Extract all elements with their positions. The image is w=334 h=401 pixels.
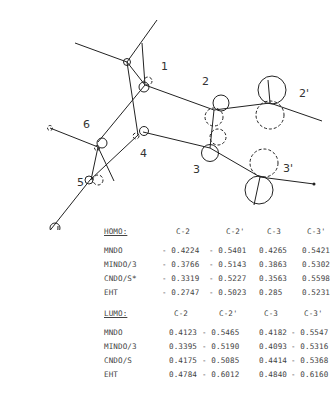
- column-header: C-3: [264, 309, 278, 318]
- atom-label-2-prime: 2': [299, 87, 309, 100]
- column-header: C-3': [307, 227, 326, 236]
- homo-title: HOMO:: [104, 227, 127, 236]
- atom-label-2: 2: [202, 75, 209, 88]
- atom-label-1: 1: [161, 60, 168, 73]
- column-header: C-2: [174, 309, 188, 318]
- lumo-title: LUMO:: [104, 309, 127, 318]
- column-header: C-3': [304, 309, 323, 318]
- atom-label-4: 4: [140, 147, 147, 160]
- atom-label-3-prime: 3': [283, 162, 293, 175]
- atom-label-6: 6: [83, 118, 90, 131]
- column-header: C-2': [226, 227, 245, 236]
- column-header: C-3: [267, 227, 281, 236]
- atom-label-5: 5: [77, 176, 84, 189]
- column-header: C-2': [219, 309, 238, 318]
- column-header: C-2: [176, 227, 190, 236]
- atom-label-3: 3: [193, 163, 200, 176]
- molecular-orbital-diagram: [0, 0, 334, 230]
